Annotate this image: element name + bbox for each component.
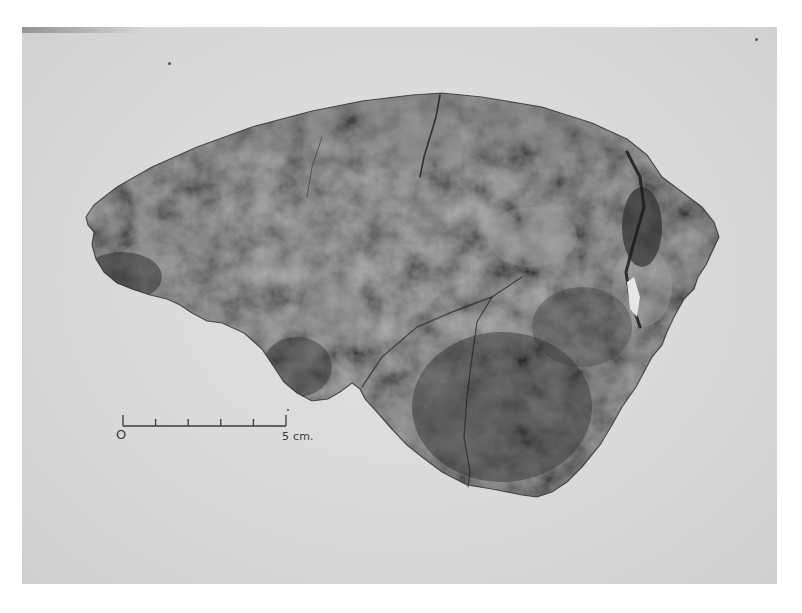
skull-fragment: [22, 27, 777, 584]
scale-bar-ruler: [121, 411, 291, 431]
scale-end-label: 5 cm.: [282, 430, 314, 443]
dust-speck: [755, 38, 758, 41]
scale-bar: [121, 411, 291, 451]
dust-speck: [287, 409, 289, 411]
scale-start-label: O: [116, 427, 126, 442]
photograph: [22, 27, 777, 584]
dust-speck: [168, 62, 171, 65]
